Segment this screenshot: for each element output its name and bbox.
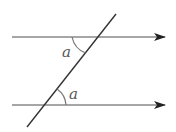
bottom-angle-label: a bbox=[69, 85, 78, 103]
parallel-lines-diagram: a a bbox=[0, 0, 176, 132]
bottom-angle-arc bbox=[57, 89, 66, 105]
top-angle-label: a bbox=[62, 43, 71, 61]
transversal-line bbox=[27, 14, 116, 127]
top-angle-arc bbox=[72, 37, 86, 53]
